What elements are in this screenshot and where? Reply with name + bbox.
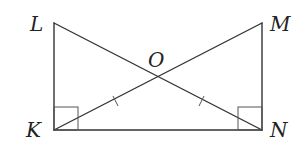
right-angle-marker-N — [238, 107, 262, 130]
vertex-label-O: O — [148, 50, 164, 70]
diagram-canvas — [0, 0, 306, 145]
right-angle-marker-K — [54, 107, 78, 130]
vertex-label-M: M — [270, 14, 290, 34]
vertex-label-K: K — [26, 120, 41, 140]
geometry-figure: L M K N O — [0, 0, 306, 145]
vertex-label-L: L — [30, 14, 43, 34]
vertex-label-N: N — [270, 120, 288, 140]
